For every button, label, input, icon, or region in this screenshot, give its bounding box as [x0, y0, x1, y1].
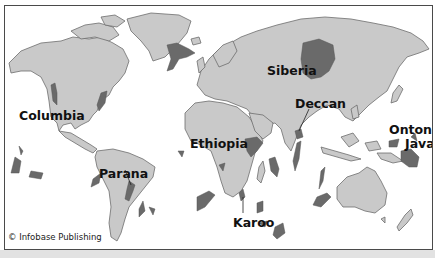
continent-australia — [337, 167, 387, 213]
continent-central-america — [59, 131, 97, 153]
province-pacific-1 — [11, 157, 21, 173]
world-map — [5, 6, 432, 249]
province-greenland-ne-atlantic — [167, 43, 195, 71]
map-frame: Columbia Siberia Deccan Ethiopia Ontong … — [4, 5, 433, 250]
continent-south-america — [95, 149, 155, 241]
label-ontong: Ontong — [389, 124, 433, 137]
copyright-credit: © Infobase Publishing — [8, 232, 102, 242]
label-columbia: Columbia — [19, 110, 85, 123]
label-siberia: Siberia — [267, 65, 317, 78]
label-karoo: Karoo — [233, 217, 274, 230]
madagascar — [257, 161, 265, 183]
label-parana: Parana — [99, 168, 148, 181]
label-java: Java — [405, 138, 433, 151]
province-ontong-java — [401, 149, 419, 167]
label-ethiopia: Ethiopia — [190, 138, 248, 151]
province-deccan-ridge — [293, 141, 301, 171]
province-indian-ocean-1 — [269, 157, 279, 177]
indonesia — [321, 147, 361, 161]
bottom-band — [0, 250, 435, 258]
label-deccan: Deccan — [295, 98, 346, 111]
japan — [391, 85, 403, 103]
new-zealand — [397, 209, 413, 231]
province-kerguelen — [273, 223, 285, 239]
new-guinea — [377, 153, 403, 163]
